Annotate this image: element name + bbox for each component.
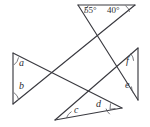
- angle-label-d: d: [96, 99, 101, 109]
- segment-left-upper-ray: [13, 53, 122, 108]
- angle-label-f: f: [126, 56, 129, 66]
- angle-label-40: 40°: [107, 6, 120, 15]
- angle-label-e: e: [125, 80, 129, 90]
- geometry-figure: 55° 40° a b c d e f: [0, 0, 150, 127]
- arc-b: [14, 93, 19, 100]
- angle-label-b: b: [19, 81, 24, 91]
- angle-label-c: c: [74, 105, 78, 115]
- angle-label-55: 55°: [84, 6, 97, 15]
- angle-label-a: a: [19, 58, 24, 68]
- arc-f: [131, 54, 134, 61]
- arc-d: [106, 109, 110, 115]
- arc-a: [14, 57, 19, 65]
- arc-e: [131, 87, 133, 94]
- segment-left-lower-ray: [13, 5, 135, 104]
- segment-bottom-base: [55, 108, 122, 120]
